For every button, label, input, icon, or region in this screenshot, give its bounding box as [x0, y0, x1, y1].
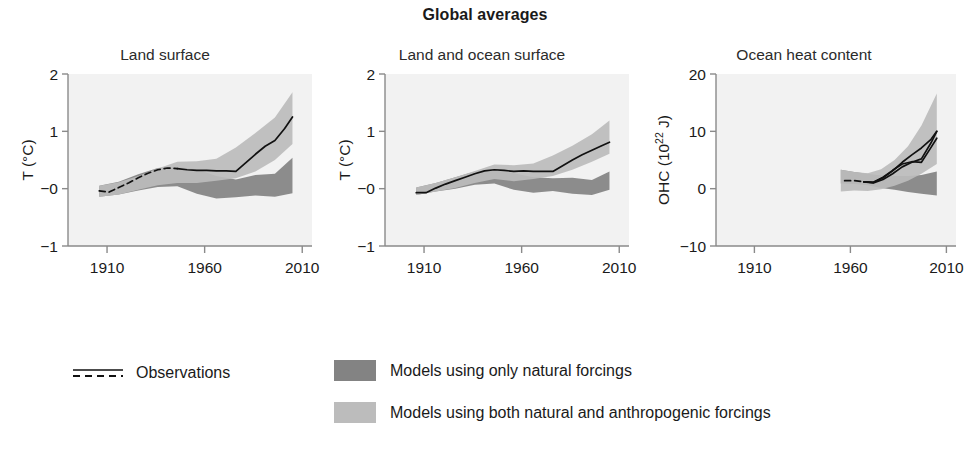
y-axis-title: T (°C) — [336, 139, 353, 180]
x-tick-label: 1910 — [90, 259, 125, 276]
legend-label-natural-forcings: Models using only natural forcings — [390, 362, 632, 380]
x-tick-label: 2010 — [602, 259, 637, 276]
y-tick-label: −10 — [680, 238, 707, 255]
legend-item-natural-forcings: Models using only natural forcings — [334, 360, 632, 381]
y-tick-label: 1 — [49, 123, 58, 140]
observations-line-icon — [72, 365, 124, 381]
x-tick-label: 1960 — [833, 259, 868, 276]
y-tick-label: −0 — [40, 180, 58, 197]
y-tick-label: 2 — [49, 68, 58, 83]
y-axis-title: OHC (1022 J) — [653, 115, 672, 205]
swatch-natural-forcings — [334, 360, 376, 381]
y-tick-label: 2 — [366, 68, 375, 83]
y-tick-label: −0 — [357, 180, 375, 197]
x-tick-label: 1960 — [504, 259, 539, 276]
figure-root: Global averages Land surface −1−01219101… — [0, 0, 970, 453]
panel-land-ocean-surface: Land and ocean surface −1−01219101960201… — [327, 46, 637, 286]
y-tick-label: 10 — [689, 123, 707, 140]
legend-item-both-forcings: Models using both natural and anthropoge… — [334, 402, 771, 423]
y-tick-label: −1 — [40, 238, 58, 255]
panel-ocean-heat-content: Ocean heat content −1001020191019602010O… — [644, 46, 964, 286]
legend: Observations Models using only natural f… — [0, 340, 970, 450]
panel-title-ocean-heat-content: Ocean heat content — [644, 46, 964, 64]
y-tick-label: −1 — [357, 238, 375, 255]
y-tick-label: 0 — [697, 180, 706, 197]
plot-land-surface: −1−012191019602010T (°C) — [10, 68, 320, 286]
panel-title-land-surface: Land surface — [10, 46, 320, 64]
legend-label-observations: Observations — [136, 364, 230, 382]
figure-title: Global averages — [0, 6, 970, 24]
swatch-both-forcings — [334, 402, 376, 423]
y-tick-label: 20 — [689, 68, 707, 83]
x-tick-label: 2010 — [929, 259, 964, 276]
panel-title-land-ocean-surface: Land and ocean surface — [327, 46, 637, 64]
x-tick-label: 1910 — [407, 259, 442, 276]
y-axis-title: T (°C) — [19, 139, 36, 180]
x-tick-label: 1910 — [737, 259, 772, 276]
y-tick-label: 1 — [366, 123, 375, 140]
panel-land-surface: Land surface −1−012191019602010T (°C) — [10, 46, 320, 286]
plot-land-ocean-surface: −1−012191019602010T (°C) — [327, 68, 637, 286]
x-tick-label: 1960 — [187, 259, 222, 276]
x-tick-label: 2010 — [285, 259, 320, 276]
legend-label-both-forcings: Models using both natural and anthropoge… — [390, 404, 771, 422]
legend-item-observations: Observations — [72, 364, 230, 382]
plot-ocean-heat-content: −1001020191019602010OHC (1022 J) — [644, 68, 964, 286]
